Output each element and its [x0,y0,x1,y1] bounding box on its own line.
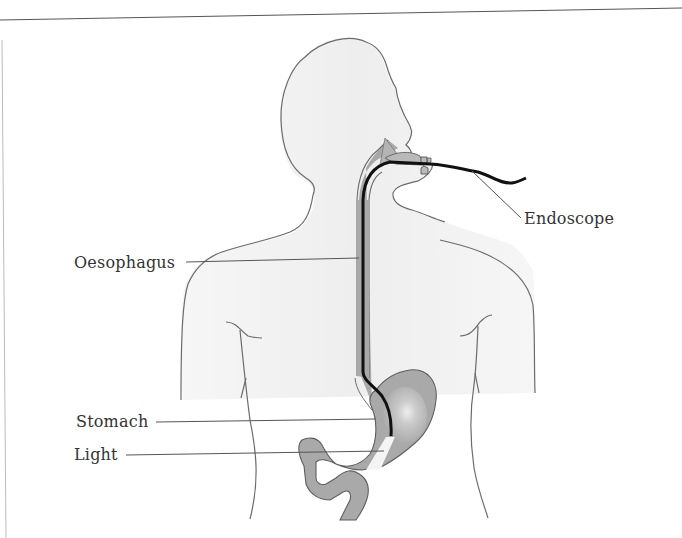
frame-left-line [2,40,6,538]
frame-top-line [0,8,682,20]
stomach-leader-line [156,419,376,422]
endoscope-label: Endoscope [524,211,614,227]
oesophagus-label: Oesophagus [74,255,175,271]
light-label: Light [74,447,118,463]
stomach-label: Stomach [76,414,148,430]
